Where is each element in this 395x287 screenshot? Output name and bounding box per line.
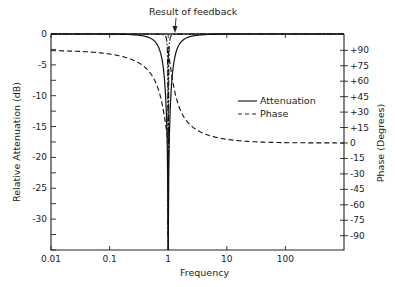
y-tick-label: -15: [32, 122, 47, 132]
x-tick-label: 0.01: [41, 254, 61, 264]
x-tick-label: 1: [165, 254, 171, 264]
y-tick-label: 0: [41, 29, 47, 39]
y-tick-label: -20: [32, 152, 47, 162]
y-tick-label: -30: [32, 214, 47, 224]
series-result-of-feedback: [51, 34, 168, 236]
y2-tick-label: +45: [350, 92, 369, 102]
plot-frame: [51, 34, 344, 250]
x-axis-label: Frequency: [180, 267, 229, 278]
series-phase: [168, 51, 344, 143]
y-axis-ticks: 0-5-10-15-20-25-30: [32, 29, 56, 250]
y2-tick-label: -45: [350, 184, 365, 194]
feedback-annotation: Result of feedback: [149, 6, 238, 17]
x-tick-label: 10: [221, 254, 233, 264]
legend: Attenuation Phase: [238, 95, 316, 119]
x-tick-label: 0.1: [102, 254, 116, 264]
y-tick-label: -25: [32, 183, 47, 193]
y2-tick-label: +15: [350, 123, 369, 133]
chart: 0.010.1110100 0-5-10-15-20-25-30 +90+75+…: [0, 0, 395, 287]
axes-frame: [51, 34, 344, 250]
y2-tick-label: -75: [350, 215, 365, 225]
x-tick-label: 100: [277, 254, 294, 264]
y2-tick-label: -60: [350, 200, 365, 210]
legend-attenuation-label: Attenuation: [260, 95, 316, 106]
y2-tick-label: -30: [350, 169, 365, 179]
y2-tick-label: -15: [350, 153, 365, 163]
y-tick-label: -5: [38, 60, 47, 70]
series-attenuation: [51, 34, 168, 250]
y2-tick-label: +75: [350, 61, 369, 71]
series-layer: [51, 34, 344, 250]
y2-tick-label: +90: [350, 45, 369, 55]
y2-tick-label: +30: [350, 107, 369, 117]
annotation-arrow-icon: [173, 18, 178, 33]
series-result-of-feedback: [168, 34, 344, 236]
y-tick-label: -10: [32, 91, 47, 101]
series-phase: [51, 51, 168, 142]
legend-phase-label: Phase: [260, 108, 289, 119]
y2-axis-label: Phase (Degrees): [375, 104, 386, 182]
y2-tick-label: +60: [350, 76, 369, 86]
y2-tick-label: 0: [350, 138, 356, 148]
y-axis-label: Relative Attenuation (dB): [11, 82, 22, 202]
y2-tick-label: -90: [350, 231, 365, 241]
